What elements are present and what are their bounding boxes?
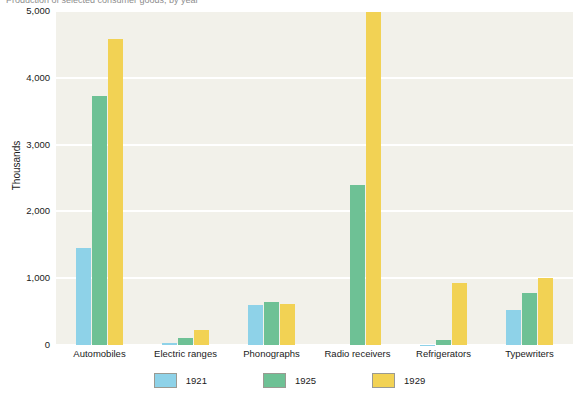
gridline <box>56 277 573 279</box>
y-axis-tick-label: 2,000 <box>0 206 50 216</box>
bar <box>162 343 177 345</box>
bar <box>280 304 295 345</box>
bar <box>92 96 107 345</box>
gridline <box>56 77 573 79</box>
y-axis-tick-label: 1,000 <box>0 273 50 283</box>
gridline <box>56 344 573 346</box>
gridline <box>56 144 573 146</box>
bar <box>194 330 209 345</box>
chart-legend: 192119251929 <box>0 370 579 390</box>
y-axis-tick-label: 5,000 <box>0 6 50 16</box>
gridline <box>56 10 573 12</box>
bar <box>506 310 521 345</box>
bar <box>350 185 365 345</box>
legend-swatch-icon <box>263 373 286 388</box>
y-axis-tick-label: 0 <box>0 340 50 350</box>
bar <box>522 293 537 345</box>
legend-item[interactable]: 1929 <box>372 373 425 388</box>
bar <box>264 302 279 345</box>
legend-item[interactable]: 1921 <box>154 373 207 388</box>
legend-label: 1921 <box>186 375 207 386</box>
legend-item[interactable]: 1925 <box>263 373 316 388</box>
x-axis-tick-label: Automobiles <box>73 348 125 359</box>
bar <box>452 283 467 345</box>
x-axis-tick-label: Phonographs <box>243 348 300 359</box>
bar-chart: Production of selected consumer goods, b… <box>0 0 579 394</box>
bar <box>366 12 381 345</box>
legend-label: 1925 <box>295 375 316 386</box>
x-axis-tick-label: Refrigerators <box>416 348 471 359</box>
legend-label: 1929 <box>404 375 425 386</box>
plot-area <box>56 11 573 345</box>
y-axis-tick-label: 4,000 <box>0 73 50 83</box>
bar <box>248 305 263 345</box>
x-axis-tick-label: Typewriters <box>505 348 554 359</box>
legend-swatch-icon <box>154 373 177 388</box>
x-axis-tick-label: Electric ranges <box>154 348 217 359</box>
bar <box>436 340 451 345</box>
x-axis-tick-label: Radio receivers <box>325 348 391 359</box>
bar <box>76 248 91 345</box>
y-axis-tick-label: 3,000 <box>0 140 50 150</box>
bar <box>538 278 553 345</box>
bar <box>178 338 193 345</box>
bar <box>108 39 123 345</box>
gridline <box>56 210 573 212</box>
legend-swatch-icon <box>372 373 395 388</box>
